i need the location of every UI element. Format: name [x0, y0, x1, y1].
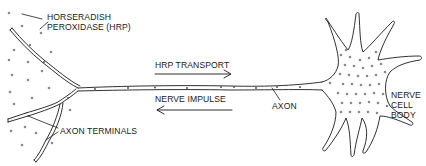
axon-shape [78, 82, 322, 91]
nerve-cell-body-label: NERVE CELL BODY [391, 90, 421, 120]
hrp-transport-arrow [155, 70, 231, 78]
nerve-impulse-arrow [157, 106, 232, 114]
cell-body-label-line3: BODY [391, 110, 421, 120]
axon-terminal-upper [10, 28, 80, 88]
neuron-diagram: HORSERADISH PEROXIDASE (HRP) HRP TRANSPO… [0, 0, 426, 166]
hrp-dots-cell-body [329, 49, 389, 115]
hrp-label-line2: PEROXIDASE (HRP) [47, 22, 131, 32]
hrp-dots-axon [29, 44, 301, 99]
axon-terminal-lower [8, 28, 78, 162]
nerve-impulse-label: NERVE IMPULSE [155, 94, 226, 104]
cell-body-shape [322, 13, 422, 157]
hrp-transport-label: HRP TRANSPORT [155, 60, 229, 70]
cell-body-label-line2: CELL [391, 100, 421, 110]
hrp-label-line1: HORSERADISH [47, 12, 131, 22]
axon-terminals-label: AXON TERMINALS [60, 126, 137, 136]
axon-label: AXON [272, 101, 297, 111]
hrp-label: HORSERADISH PEROXIDASE (HRP) [47, 12, 131, 32]
cell-body-label-line1: NERVE [391, 90, 421, 100]
